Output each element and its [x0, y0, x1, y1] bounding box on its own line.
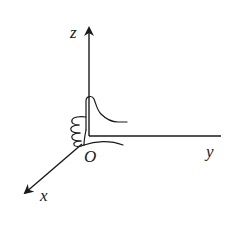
- z-axis-label: z: [69, 23, 77, 42]
- right-hand-icon: [71, 97, 127, 147]
- origin-label: O: [84, 147, 96, 166]
- x-axis: [25, 144, 82, 193]
- x-axis-label: x: [39, 186, 48, 205]
- y-axis-label: y: [204, 142, 214, 161]
- coordinate-system-diagram: z O y x: [0, 0, 240, 226]
